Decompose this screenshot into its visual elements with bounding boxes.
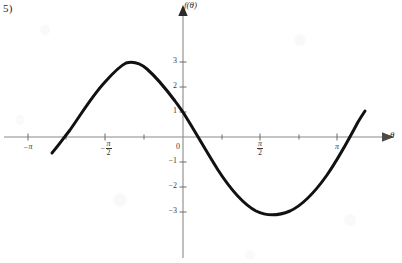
y-tick-label-3: 3 [160,56,177,65]
y-tick-label-2: 2 [160,81,177,90]
y-tick-label-neg-2: −2 [157,181,177,190]
pi-glyph: π [29,142,33,151]
coordinate-plane [0,0,402,263]
x-tick-label-neg-pi: −π [16,142,40,152]
paper-texture [15,25,356,260]
fraction-denominator: 2 [106,149,112,157]
y-tick-label-neg-3: −3 [157,206,177,215]
y-tick-label-1: 1 [160,106,177,115]
x-tick-label-pi: π [330,142,344,151]
x-tick-label-pi-over-2: π2 [250,140,270,157]
pi-glyph: π [335,142,339,151]
x-axis-label: θ [390,130,394,140]
fraction-pi-over-2: π2 [257,140,263,157]
fraction-pi-over-2: π2 [106,140,112,157]
y-tick-label-neg-1: −1 [157,156,177,165]
x-tick-label-origin: 0 [168,142,180,151]
x-tick-label-neg-pi-over-2: −π2 [92,140,120,157]
y-axis-label: f(θ) [184,0,197,10]
function-curve [52,62,365,215]
graph-figure: 5) [0,0,402,263]
fraction-denominator: 2 [257,149,263,157]
